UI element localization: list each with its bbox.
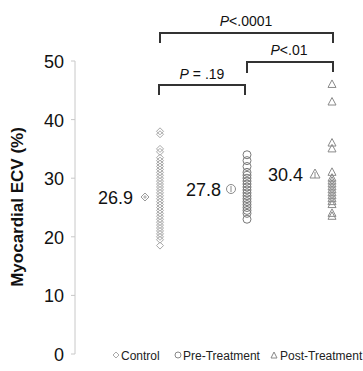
ecv-scatter-chart: 50 40 30 20 10 0 Myocardial ECV (%) P<.0…	[0, 0, 363, 371]
y-axis: 50 40 30 20 10 0 Myocardial ECV (%)	[8, 52, 75, 365]
triangle-icon	[271, 352, 277, 358]
y-axis-label: Myocardial ECV (%)	[8, 127, 27, 287]
data-point-triangle	[328, 80, 336, 88]
bracket-control-pre	[159, 85, 245, 95]
mean-label-control: 26.9	[98, 188, 133, 208]
y-tick-10: 10	[44, 286, 64, 306]
p-value-control-post: P<.0001	[220, 13, 273, 29]
y-tick-0: 0	[54, 345, 64, 365]
data-points	[157, 80, 337, 249]
y-tick-30: 30	[44, 169, 64, 189]
mean-marker-pre-icon	[227, 185, 236, 194]
mean-label-post: 30.4	[268, 165, 303, 185]
data-point-triangle	[328, 144, 336, 152]
legend-item-pre: Pre-Treatment	[175, 349, 261, 363]
mean-label-pre: 27.8	[186, 180, 221, 200]
mean-marker-post-icon	[310, 169, 320, 178]
data-point-triangle	[328, 200, 336, 208]
legend-label-control: Control	[121, 349, 160, 363]
legend-item-post: Post-Treatment	[271, 349, 363, 363]
p-value-pre-post: P<.01	[271, 42, 308, 58]
mean-marker-control-icon	[141, 193, 149, 201]
data-point-circle	[243, 215, 251, 223]
bracket-pre-post	[247, 62, 333, 73]
diamond-icon	[113, 352, 119, 358]
p-value-control-pre: P = .19	[180, 66, 225, 82]
legend-item-control: Control	[113, 349, 160, 363]
y-tick-40: 40	[44, 111, 64, 131]
data-point-triangle	[328, 98, 336, 106]
data-point-triangle	[328, 212, 336, 220]
y-tick-20: 20	[44, 228, 64, 248]
y-tick-50: 50	[44, 52, 64, 72]
legend: Control Pre-Treatment Post-Treatment	[113, 349, 363, 363]
circle-icon	[175, 352, 181, 358]
legend-label-pre: Pre-Treatment	[183, 349, 261, 363]
legend-label-post: Post-Treatment	[280, 349, 363, 363]
